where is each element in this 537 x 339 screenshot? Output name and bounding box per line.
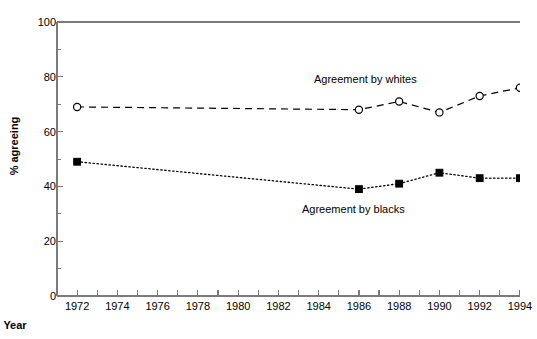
x-tick-label: 1980 xyxy=(216,300,260,313)
x-tick-label: 1978 xyxy=(176,300,220,313)
annotation-agreement-by-whites: Agreement by whites xyxy=(314,73,417,86)
x-tick-label: 1974 xyxy=(95,300,139,313)
x-tick-label: 1986 xyxy=(337,300,381,313)
x-axis-title-text: Year xyxy=(3,319,26,331)
x-tick-label: 1994 xyxy=(498,300,537,313)
annotation-agreement-by-blacks: Agreement by blacks xyxy=(302,203,405,216)
x-tick-label: 1982 xyxy=(256,300,300,313)
x-tick-label: 1972 xyxy=(55,300,99,313)
x-tick-label: 1976 xyxy=(136,300,180,313)
y-axis-title: % agreeing xyxy=(8,96,20,196)
x-tick-label: 1992 xyxy=(458,300,502,313)
x-tick-label: 1990 xyxy=(417,300,461,313)
x-axis-title: Year xyxy=(0,319,520,331)
x-tick-label: 1988 xyxy=(377,300,421,313)
x-tick-label: 1984 xyxy=(297,300,341,313)
